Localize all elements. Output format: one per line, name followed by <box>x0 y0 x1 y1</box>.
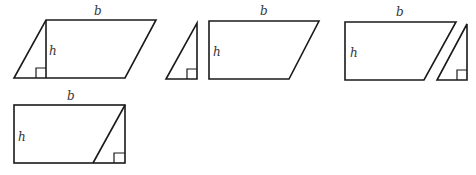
right-angle-marker <box>114 153 125 163</box>
right-angle-marker <box>36 68 46 78</box>
height-label: h <box>213 45 221 59</box>
base-label: b <box>396 5 404 19</box>
base-label: b <box>260 4 268 18</box>
trapezoid-shape <box>345 22 456 80</box>
height-label: h <box>18 130 26 144</box>
parallelogram-area-diagram: b h b h b h b h <box>0 0 476 175</box>
diagonal-cut-line <box>93 105 125 163</box>
base-label: b <box>94 4 102 18</box>
step-1-parallelogram: b h <box>14 4 156 78</box>
step-3-moved: b h <box>345 5 467 80</box>
cut-triangle <box>166 23 197 79</box>
right-angle-marker <box>457 70 467 80</box>
parallelogram-shape <box>14 20 156 78</box>
step-4-rectangle: b h <box>14 89 125 163</box>
trapezoid-shape <box>209 21 319 79</box>
height-label: h <box>49 44 57 58</box>
moved-triangle <box>437 24 467 80</box>
right-angle-marker <box>187 69 197 79</box>
step-2-cut: b h <box>166 4 319 79</box>
height-label: h <box>350 46 358 60</box>
base-label: b <box>67 89 75 103</box>
